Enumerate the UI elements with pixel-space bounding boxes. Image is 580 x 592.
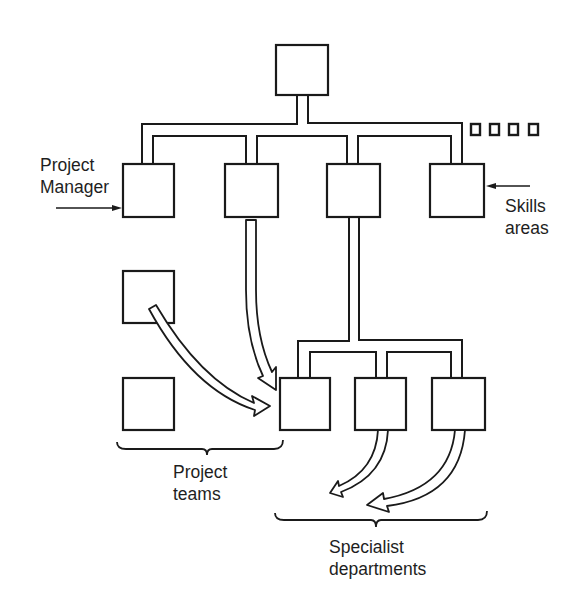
project-manager-pointer-icon — [56, 205, 122, 211]
more-skills-areas — [471, 124, 538, 135]
box-project-team-1 — [123, 271, 174, 323]
arrow-skills2-to-team3 — [246, 220, 276, 390]
box-skills-area-2 — [225, 164, 278, 217]
label-skills-areas-line1: Skills — [505, 195, 549, 217]
pipe-skills3-outer-right — [359, 217, 462, 378]
org-diagram — [0, 0, 580, 592]
label-project-teams-line2: teams — [173, 483, 227, 505]
brace-specialist-departments — [275, 511, 487, 527]
pipe-skills-inner-2 — [257, 136, 347, 164]
box-project-team-3 — [280, 378, 330, 430]
pipe-skills-inner-3 — [358, 136, 451, 164]
pipe-skills-inner-1 — [153, 136, 246, 164]
label-specialist-departments: Specialist departments — [329, 536, 426, 580]
box-project-team-2 — [123, 378, 174, 430]
box-specialist-dept-1 — [355, 378, 406, 430]
skills-areas-pointer-icon — [486, 183, 530, 189]
pipe-top-to-skills-outer — [142, 95, 297, 164]
box-specialist-dept-2 — [432, 378, 485, 430]
pipe-bottom-inner-2 — [387, 352, 451, 378]
label-specialist-departments-line2: departments — [329, 558, 426, 580]
box-skills-area-4 — [430, 164, 484, 217]
pipe-top-to-skills-outer-right — [308, 95, 462, 164]
arrow-dept1-outward — [330, 430, 388, 497]
label-project-manager-line1: Project — [40, 154, 109, 176]
label-skills-areas-line2: areas — [505, 217, 549, 239]
pipe-skills3-outer — [298, 217, 349, 378]
label-skills-areas: Skills areas — [505, 195, 549, 239]
label-project-teams: Project teams — [173, 461, 227, 505]
label-specialist-departments-line1: Specialist — [329, 536, 426, 558]
label-project-manager-line2: Manager — [40, 176, 109, 198]
box-skills-area-3 — [327, 164, 380, 217]
box-skills-area-1 — [123, 164, 174, 217]
label-project-manager: Project Manager — [40, 154, 109, 198]
label-project-teams-line1: Project — [173, 461, 227, 483]
brace-project-teams — [117, 440, 283, 455]
box-top-management — [276, 45, 328, 95]
pipe-bottom-inner-1 — [310, 352, 376, 378]
